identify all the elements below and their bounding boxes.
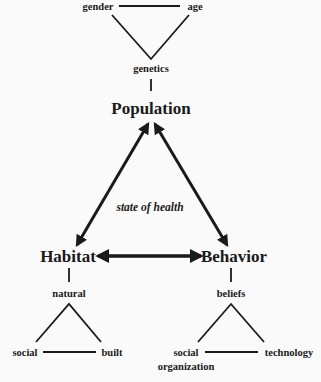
social-organization-label-line2: organization — [158, 362, 215, 373]
beliefs-label: beliefs — [217, 289, 246, 300]
top-triangle-v — [112, 15, 189, 59]
behavior-node: Behavior — [201, 248, 267, 265]
habitat-node: Habitat — [40, 248, 96, 265]
population-habitat-arrow — [77, 124, 148, 245]
genetics-label: genetics — [133, 64, 169, 75]
state-of-health-label: state of health — [116, 202, 183, 214]
built-label: built — [101, 348, 122, 359]
diagram-lines — [0, 0, 321, 382]
population-behavior-arrow — [155, 124, 227, 245]
social-label: social — [12, 348, 37, 359]
natural-label: natural — [52, 289, 85, 300]
population-node: Population — [111, 100, 190, 117]
technology-label: technology — [265, 348, 313, 359]
behavior-triangle — [198, 304, 264, 342]
gender-label: gender — [83, 2, 114, 13]
habitat-triangle — [36, 304, 101, 342]
age-label: age — [187, 2, 202, 13]
social-organization-label-line1: social — [173, 348, 198, 359]
